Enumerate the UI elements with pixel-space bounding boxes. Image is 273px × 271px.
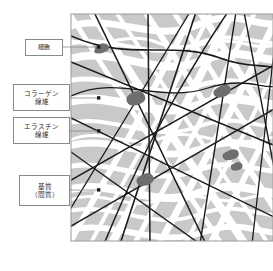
diagram-panel (56, 4, 273, 264)
label-cell-line1: 細胞 (38, 44, 50, 51)
label-box-collagen: コラーゲン 線維 (13, 84, 70, 111)
leader-marker-elastin (97, 129, 100, 132)
label-elastin-line2: 線維 (35, 131, 49, 138)
leader-marker-cell (97, 45, 100, 48)
label-matrix-line1: 基質 (38, 183, 52, 190)
leader-marker-matrix (97, 188, 100, 191)
leader-marker-collagen (97, 96, 100, 99)
label-box-cell: 細胞 (25, 39, 63, 56)
label-box-elastin: エラスチン 線維 (13, 117, 70, 144)
label-matrix-line2: （間質） (31, 191, 59, 198)
label-collagen-line2: 線維 (35, 98, 49, 105)
label-collagen-line1: コラーゲン (24, 90, 59, 97)
connective-tissue-figure: 細胞 コラーゲン 線維 エラスチン 線維 基質 （間質） (0, 0, 273, 271)
label-box-matrix: 基質 （間質） (19, 175, 70, 206)
label-elastin-line1: エラスチン (24, 123, 59, 130)
